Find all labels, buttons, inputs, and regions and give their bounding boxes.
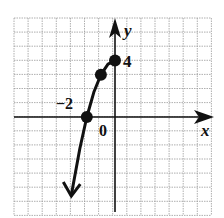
- origin-label: 0: [99, 122, 107, 139]
- x-tick-label-neg2: −2: [56, 95, 73, 112]
- axes: [14, 18, 214, 212]
- y-axis-label: y: [122, 21, 132, 40]
- y-tick-label-4: 4: [123, 52, 132, 71]
- x-axis-label: x: [200, 121, 210, 140]
- data-point: [109, 55, 121, 67]
- data-point: [95, 69, 107, 81]
- coordinate-graph: y x 0 4 −2: [0, 0, 224, 218]
- function-curve: [63, 61, 115, 197]
- data-point: [81, 111, 93, 123]
